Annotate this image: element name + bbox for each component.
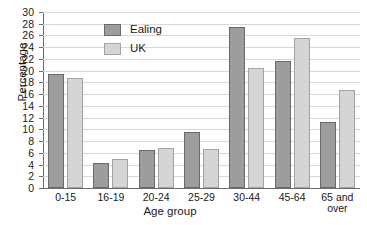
legend: EalingUK xyxy=(104,20,162,58)
x-axis-title: Age group xyxy=(0,205,340,217)
legend-swatch-icon xyxy=(104,24,121,36)
legend-swatch-icon xyxy=(104,43,121,55)
legend-label: Ealing xyxy=(130,24,162,36)
legend-item-uk: UK xyxy=(104,39,162,58)
legend-label: UK xyxy=(130,43,146,55)
legend-item-ealing: Ealing xyxy=(104,20,162,39)
x-axis-tick-labels: 0-1516-1920-2425-2930-4445-6465 andover xyxy=(0,0,367,225)
bar-chart: Percentage 024681012141618202224262830 0… xyxy=(0,0,367,225)
